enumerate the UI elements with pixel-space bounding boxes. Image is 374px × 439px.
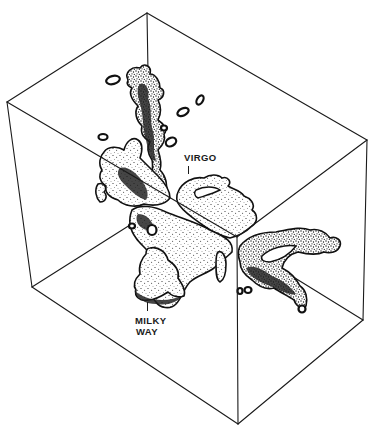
- cloud-small-5: [99, 134, 108, 140]
- box-edge-front-vertical: [237, 237, 238, 424]
- cloud-small-9: [245, 287, 252, 293]
- milky-way-label-line2: WAY: [136, 326, 158, 337]
- cloud-small-8: [238, 288, 243, 294]
- cloud-small-1: [105, 74, 121, 85]
- box-frame: [7, 13, 367, 424]
- milky-way-pointer: [147, 302, 148, 311]
- virgo-label: VIRGO: [184, 152, 217, 163]
- cloud-small-2: [176, 106, 190, 117]
- box-edge-top-left: [7, 13, 147, 102]
- box-edge-left-vertical: [7, 102, 32, 287]
- diagram-canvas: [0, 0, 374, 439]
- cloud-small-3: [195, 94, 205, 106]
- box-edge-inner-left-bottom: [32, 225, 130, 287]
- central-dot: [129, 224, 135, 229]
- cloud-small-4: [164, 136, 178, 148]
- central-ring: [148, 225, 157, 235]
- box-edge-right-vertical: [363, 140, 367, 320]
- cloud-small-7: [299, 306, 306, 313]
- box-edge-front-right: [237, 140, 367, 237]
- box-edge-bottom-left: [32, 287, 238, 424]
- virgo-pointer: [188, 166, 189, 174]
- galaxy-filaments: [96, 65, 341, 312]
- milky-way-label-line1: MILKY: [135, 315, 167, 326]
- box-edge-top-right: [147, 13, 367, 140]
- left-spur: [96, 184, 106, 202]
- box-edge-back-vertical: [147, 13, 148, 72]
- box-edge-bottom-right: [238, 320, 363, 424]
- front-sliver: [216, 252, 226, 282]
- supercluster-diagram: VIRGO MILKY WAY: [0, 0, 374, 439]
- cloud-small-6: [161, 126, 167, 131]
- box-edge-front-left: [7, 102, 237, 237]
